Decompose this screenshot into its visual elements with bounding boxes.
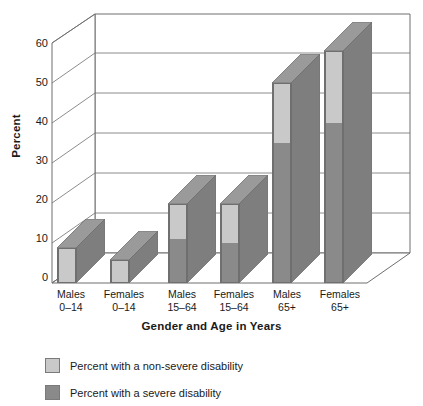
y-tick-0: 0 [18, 271, 48, 283]
y-tick-60: 60 [18, 37, 48, 49]
x-label-line2: 65+ [305, 301, 375, 314]
y-tick-30: 30 [18, 154, 48, 166]
y-tick-40: 40 [18, 115, 48, 127]
y-tick-20: 20 [18, 193, 48, 205]
legend-swatch-severe [45, 385, 60, 400]
y-tick-50: 50 [18, 76, 48, 88]
legend-swatch-non-severe [45, 358, 60, 373]
x-label-females-65-plus: Females 65+ [305, 288, 375, 314]
bar-males-65-plus [272, 54, 320, 283]
bar-females-0-14 [110, 231, 158, 283]
y-tick-10: 10 [18, 232, 48, 244]
chart-container: Percent 60 50 40 30 20 10 0 [0, 0, 423, 406]
bar-females-15-64 [220, 175, 268, 283]
legend-item-non-severe: Percent with a non-severe disability [45, 358, 243, 373]
legend-item-severe: Percent with a severe disability [45, 385, 221, 400]
x-axis-title: Gender and Age in Years [0, 320, 423, 332]
bar-females-65-plus [324, 22, 372, 283]
legend-label-severe: Percent with a severe disability [70, 387, 221, 399]
legend-label-non-severe: Percent with a non-severe disability [70, 360, 243, 372]
bar-males-0-14 [57, 219, 105, 283]
x-label-line1: Females [305, 288, 375, 301]
bar-males-15-64 [168, 175, 216, 283]
